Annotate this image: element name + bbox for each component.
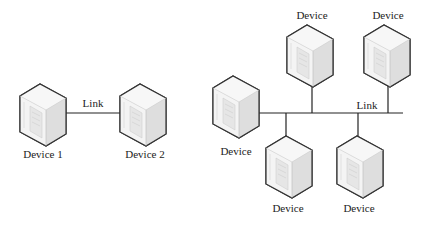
p2p-link-label: Link [83, 97, 104, 109]
server-icon [213, 76, 259, 138]
bus-device-top2-label: Device [372, 9, 403, 21]
device-1-label: Device 1 [23, 148, 62, 160]
server-icon [337, 136, 383, 198]
server-icon [364, 25, 410, 87]
bus-link-label: Link [357, 99, 378, 111]
bus-device-bottom1-label: Device [272, 202, 303, 214]
bus-device-top1-label: Device [296, 9, 327, 21]
bus-diagram: Link Device Device Device Device Device [213, 9, 410, 214]
bus-device-bottom2-label: Device [343, 202, 374, 214]
server-icon [287, 25, 333, 87]
point-to-point-diagram: Link Device 1 Device 2 [20, 84, 166, 160]
server-icon [120, 84, 166, 146]
bus-device-left-label: Device [220, 145, 251, 157]
server-icon [20, 84, 66, 146]
server-icon [266, 136, 312, 198]
network-diagram: Link Device 1 Device 2 Link Device Devic… [0, 0, 424, 230]
device-2-label: Device 2 [125, 148, 164, 160]
